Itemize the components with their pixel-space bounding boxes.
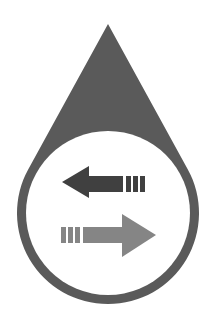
water-drop-icon [17,24,199,304]
water-exchange-icon: Water drop icon with two opposing arrows… [0,0,213,328]
